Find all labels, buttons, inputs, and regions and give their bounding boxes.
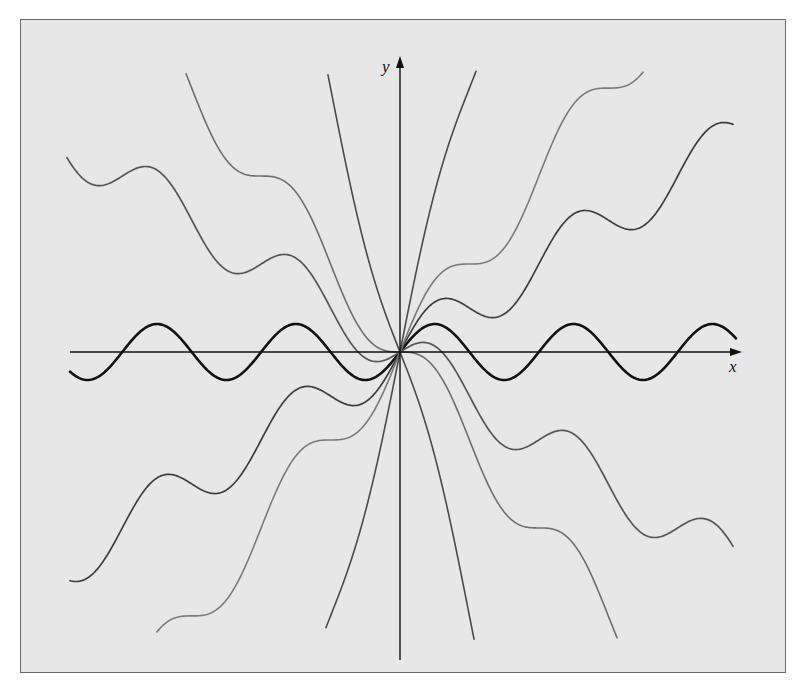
y-axis-arrowhead-icon	[396, 56, 404, 68]
curve-family	[67, 71, 736, 639]
curve-c-neg3	[328, 75, 474, 639]
curve-c-3	[326, 71, 476, 627]
x-axis-label: x	[728, 357, 737, 376]
y-axis-label: y	[380, 57, 390, 76]
x-axis-arrowhead-icon	[730, 348, 742, 356]
axes	[70, 56, 742, 660]
chart-plot: x y	[0, 0, 809, 694]
